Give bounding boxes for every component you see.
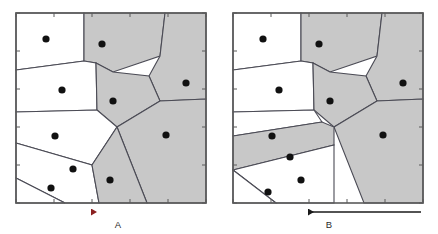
seed-point <box>42 35 49 42</box>
seed-point <box>98 40 105 47</box>
panel-b-label: B <box>326 219 333 230</box>
seed-point <box>286 153 293 160</box>
seed-point <box>51 132 58 139</box>
seed-point <box>326 97 333 104</box>
seed-point <box>264 188 271 195</box>
voronoi-cell <box>16 13 84 70</box>
seed-point <box>268 132 275 139</box>
voronoi-cell <box>233 13 301 70</box>
seed-point <box>259 35 266 42</box>
voronoi-cell <box>233 61 314 112</box>
seed-point <box>399 79 406 86</box>
panel-b: B <box>233 13 423 230</box>
seed-point <box>109 97 116 104</box>
panel-a-label: A <box>115 219 122 230</box>
voronoi-figure: A <box>0 0 438 234</box>
panel-a: A <box>16 13 206 230</box>
seed-point <box>182 79 189 86</box>
seed-point <box>379 131 386 138</box>
seed-point <box>47 184 54 191</box>
voronoi-svg-canvas: A <box>0 0 438 234</box>
seed-point <box>315 40 322 47</box>
seed-point <box>69 165 76 172</box>
seed-point <box>58 86 65 93</box>
panel-group: A <box>0 0 438 234</box>
seed-point <box>106 176 113 183</box>
voronoi-cell <box>16 61 97 112</box>
seed-point <box>275 86 282 93</box>
seed-point <box>162 131 169 138</box>
seed-point <box>297 176 304 183</box>
